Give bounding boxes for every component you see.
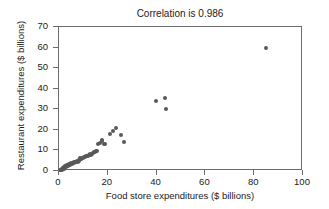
x-axis-tick-label: 60 [184,177,224,187]
chart-title: Correlation is 0.986 [58,8,302,19]
data-point [264,46,268,50]
x-axis-tick [204,170,205,175]
y-axis-tick [53,26,58,27]
y-axis-tick [53,67,58,68]
scatter-plot-figure: Correlation is 0.986 0102030405060700204… [0,0,329,209]
data-point [95,149,99,153]
y-axis-tick [53,47,58,48]
y-axis-tick [53,88,58,89]
y-axis-tick [53,108,58,109]
data-point [154,99,158,103]
data-points-layer [59,27,301,169]
x-axis-tick [253,170,254,175]
x-axis-tick-label: 80 [233,177,273,187]
x-axis-tick [302,170,303,175]
data-point [163,96,167,100]
data-point [114,126,118,130]
plot-area [58,26,302,170]
x-axis-tick [58,170,59,175]
y-axis-tick [53,129,58,130]
y-axis-label: Restaurant expenditures ($ billions) [15,6,26,186]
data-point [164,107,168,111]
data-point [103,142,107,146]
data-point [119,133,123,137]
x-axis-tick [107,170,108,175]
x-axis-tick [156,170,157,175]
x-axis-tick-label: 20 [87,177,127,187]
data-point [122,140,126,144]
x-axis-tick-label: 100 [282,177,322,187]
x-axis-label: Food store expenditures ($ billions) [58,190,302,201]
x-axis-tick-label: 40 [136,177,176,187]
y-axis-tick [53,149,58,150]
x-axis-tick-label: 0 [38,177,78,187]
